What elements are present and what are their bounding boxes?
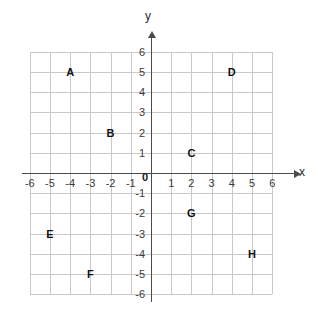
- y-tick-label: -3: [129, 229, 145, 240]
- point-label-h: H: [244, 249, 260, 260]
- x-tick-label: -2: [101, 178, 121, 189]
- x-tick-label: 1: [161, 178, 181, 189]
- y-tick-label: 4: [129, 87, 145, 98]
- point-label-c: C: [183, 148, 199, 159]
- y-tick-label: 5: [129, 67, 145, 78]
- point-label-a: A: [62, 67, 78, 78]
- x-tick-label: -5: [40, 178, 60, 189]
- y-tick-label: 2: [129, 128, 145, 139]
- y-tick-label: -6: [129, 289, 145, 300]
- point-label-f: F: [82, 269, 98, 280]
- origin-label: 0: [142, 172, 148, 183]
- point-label-b: B: [103, 128, 119, 139]
- y-axis-arrow-icon: [148, 31, 156, 38]
- y-axis: [151, 38, 152, 302]
- coordinate-plane: -6-5-4-3-2-1123456654321-1-2-3-4-5-6 ABC…: [0, 0, 318, 324]
- y-tick-label: -5: [129, 269, 145, 280]
- x-axis: [22, 173, 294, 174]
- x-tick-label: 3: [202, 178, 222, 189]
- point-label-g: G: [183, 208, 199, 219]
- y-tick-label: -4: [129, 249, 145, 260]
- y-tick-label: -1: [129, 188, 145, 199]
- x-tick-label: 2: [181, 178, 201, 189]
- point-label-e: E: [42, 229, 58, 240]
- x-tick-label: -4: [60, 178, 80, 189]
- x-tick-label: 6: [262, 178, 282, 189]
- y-axis-label: y: [145, 10, 151, 22]
- y-tick-label: 3: [129, 107, 145, 118]
- point-label-d: D: [224, 67, 240, 78]
- y-tick-label: 1: [129, 148, 145, 159]
- x-axis-label: x: [299, 166, 305, 178]
- x-tick-label: -3: [80, 178, 100, 189]
- y-tick-label: 6: [129, 47, 145, 58]
- x-tick-label: -6: [20, 178, 40, 189]
- x-tick-label: 4: [222, 178, 242, 189]
- x-tick-label: 5: [242, 178, 262, 189]
- y-tick-label: -2: [129, 208, 145, 219]
